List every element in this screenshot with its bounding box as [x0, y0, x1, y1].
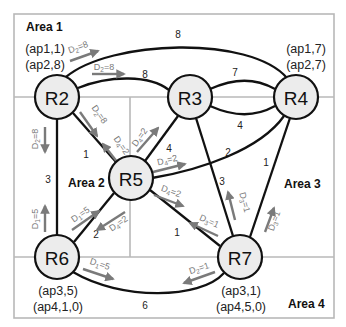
edge-r6-r7 [73, 272, 224, 293]
arrow-label-d4-r5-r3: D4=2 [130, 126, 151, 149]
weight-r4-r7: 1 [263, 157, 269, 168]
arrow-label-d1-r6-r5: D1=5 [69, 205, 92, 226]
router-r3-label: R3 [178, 88, 202, 109]
router-r5-label: R5 [119, 169, 143, 190]
weight-r3-r4-lower: 4 [237, 120, 243, 131]
edge-r3-r4-lower [210, 106, 275, 114]
r6-ap-2: (ap4,1,0) [33, 300, 83, 314]
arrow-label-d2-r2-r4: D2=8 [67, 39, 90, 56]
router-r4: R4 [274, 75, 318, 119]
router-r2: R2 [35, 75, 79, 119]
router-r7: R7 [218, 235, 262, 279]
edge-r2-r5 [73, 113, 116, 162]
network-diagram: Area 1 Area 2 Area 3 Area 4 8 8 7 4 1 3 … [0, 0, 346, 327]
weight-r6-r7: 6 [142, 300, 148, 311]
r4-ap-1: (ap1,7) [286, 42, 326, 56]
edge-r3-r4-upper [210, 81, 275, 89]
edge-r2-r3 [78, 78, 169, 90]
weight-r5-r7: 1 [174, 227, 180, 238]
r7-ap-1: (ap3,1) [221, 284, 261, 298]
weight-r3-r5: 4 [166, 143, 172, 154]
r6-ap-1: (ap3,5) [38, 284, 78, 298]
r2-ap-2: (ap2,8) [25, 58, 65, 72]
weight-r4-r5: 2 [225, 147, 231, 158]
weight-r2-r3: 8 [142, 69, 148, 80]
arrow-label-d3-r7-r3: D3=1 [236, 191, 252, 214]
area-1-label: Area 1 [26, 20, 63, 34]
r7-ap-2: (ap4,5,0) [216, 300, 266, 314]
weight-r3-r4-upper: 7 [232, 67, 238, 78]
weight-r5-r6: 2 [93, 229, 99, 240]
router-r6-label: R6 [45, 248, 69, 269]
arrow-label-d2-r2-r3: D2=8 [94, 62, 114, 73]
arrow-label-d2-r2-r6: D2=8 [30, 129, 41, 149]
router-r7-label: R7 [228, 248, 252, 269]
router-r3: R3 [168, 75, 212, 119]
weight-r2-r6: 3 [45, 174, 51, 185]
weight-r2-r4-outer: 8 [175, 29, 181, 40]
arrow-d3-r7-r3 [228, 192, 235, 220]
arrow-label-d4-r5-r6: D4=2 [107, 214, 130, 235]
weight-r2-r5: 1 [83, 149, 89, 160]
router-r6: R6 [35, 235, 79, 279]
r2-ap-1: (ap1,1) [25, 42, 65, 56]
router-r4-label: R4 [284, 88, 309, 109]
arrow-label-d2-r2-r5: D2=8 [89, 103, 110, 126]
area-4-label: Area 4 [288, 297, 325, 311]
router-r2-label: R2 [45, 88, 69, 109]
weight-r3-r7: 3 [219, 176, 225, 187]
r4-ap-2: (ap2,7) [286, 58, 326, 72]
area-3-label: Area 3 [284, 177, 321, 191]
arrow-label-d4-r5-r2: D4=2 [111, 134, 132, 157]
router-r5: R5 [109, 156, 153, 200]
arrow-label-d1-r6-r2: D1=5 [30, 209, 41, 229]
arrow-label-d1-r6-r7: D1=5 [88, 256, 111, 273]
area-2-label: Area 2 [68, 176, 105, 190]
